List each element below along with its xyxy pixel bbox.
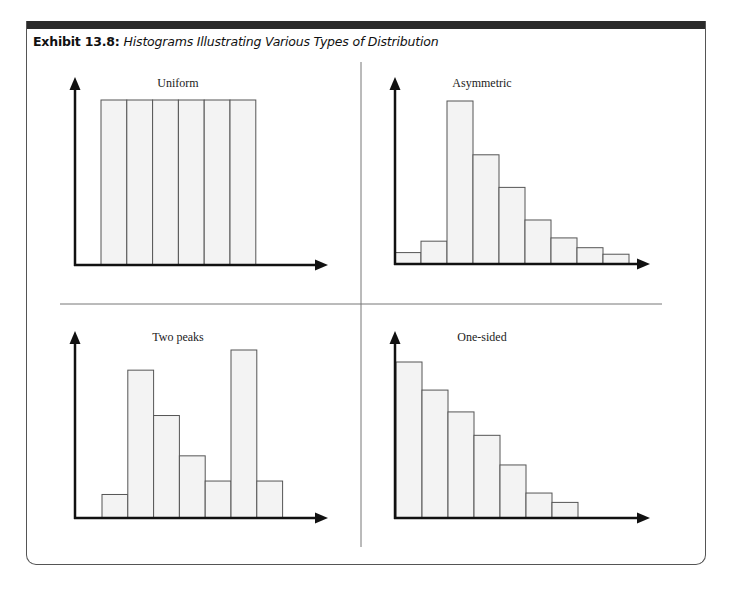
- histogram-bar: [179, 456, 205, 518]
- arrow-right-icon: [637, 259, 650, 270]
- histogram-bar: [499, 187, 525, 264]
- histogram-bar: [395, 253, 421, 264]
- histogram-bar: [552, 502, 578, 518]
- histogram-bar: [526, 493, 552, 518]
- histogram-bar: [102, 494, 128, 518]
- histogram-bar: [205, 481, 231, 518]
- arrow-right-icon: [315, 513, 328, 524]
- histogram-bar: [396, 362, 422, 518]
- histogram-bar: [448, 412, 474, 518]
- histogram-title: Asymmetric: [452, 76, 511, 90]
- histogram-uniform: Uniform: [70, 76, 329, 271]
- arrow-up-icon: [70, 331, 81, 344]
- histogram-bar: [257, 481, 283, 518]
- histogram-bar: [127, 100, 153, 265]
- histogram-bar: [230, 100, 256, 265]
- histogram-asymmetric: Asymmetric: [390, 76, 651, 270]
- histogram-bar: [525, 220, 551, 264]
- histogram-title: Uniform: [157, 76, 199, 90]
- histogram-bar: [128, 370, 154, 518]
- histogram-bar: [577, 248, 603, 264]
- histogram-bar: [154, 416, 180, 518]
- arrow-right-icon: [315, 260, 328, 271]
- histogram-bar: [473, 155, 499, 264]
- histogram-bar: [178, 100, 204, 265]
- arrow-right-icon: [637, 513, 650, 524]
- histogram-title: One-sided: [457, 330, 506, 344]
- histogram-one-sided: One-sided: [390, 330, 651, 524]
- histogram-bar: [500, 465, 526, 518]
- histogram-grid: Uniform Asymmetric Two peaks One-sided: [0, 0, 730, 592]
- histogram-bar: [422, 390, 448, 518]
- histogram-two-peaks: Two peaks: [70, 330, 329, 524]
- histogram-bar: [231, 350, 257, 518]
- arrow-up-icon: [390, 77, 401, 90]
- arrow-up-icon: [390, 331, 401, 344]
- histogram-bar: [551, 238, 577, 264]
- histogram-bar: [474, 435, 500, 518]
- histogram-bar: [204, 100, 230, 265]
- histogram-bar: [603, 254, 629, 264]
- histogram-bar: [101, 100, 127, 265]
- histogram-bar: [153, 100, 179, 265]
- histogram-bar: [447, 101, 473, 264]
- histogram-bar: [421, 241, 447, 264]
- arrow-up-icon: [70, 77, 81, 90]
- histogram-title: Two peaks: [152, 330, 204, 344]
